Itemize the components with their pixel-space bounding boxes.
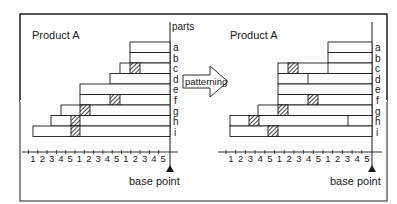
svg-text:5: 5 <box>364 153 369 164</box>
svg-text:f: f <box>174 95 177 106</box>
patterning-diagram: Product A parts a b c d e f <box>0 0 397 204</box>
hatch-c <box>288 63 298 74</box>
bar-g <box>258 105 372 116</box>
svg-text:a: a <box>173 42 179 53</box>
right-base-point-marker <box>368 165 376 172</box>
left-row-labels: a b c d e f g h i <box>173 42 179 138</box>
right-axis-labels: 1 2 3 4 5 1 2 3 4 5 1 2 3 4 5 <box>228 153 369 164</box>
svg-text:2: 2 <box>335 153 340 164</box>
svg-text:4: 4 <box>354 153 359 164</box>
right-row-labels: a b c d e f g h i <box>375 42 381 138</box>
parts-label: parts <box>172 21 194 32</box>
hatch-c <box>130 63 140 74</box>
svg-text:4: 4 <box>58 153 63 164</box>
hatch-f <box>110 95 120 106</box>
svg-text:h: h <box>173 116 179 127</box>
hatch-h <box>249 116 259 127</box>
svg-text:i: i <box>174 127 176 138</box>
svg-text:e: e <box>375 84 381 95</box>
hatch-i <box>268 126 278 137</box>
right-title: Product A <box>230 29 278 41</box>
svg-text:4: 4 <box>105 153 110 164</box>
bar-e <box>278 84 372 95</box>
bar-f <box>278 95 372 106</box>
bar-a <box>130 42 170 53</box>
svg-text:3: 3 <box>296 153 301 164</box>
bar-i <box>33 126 170 137</box>
svg-text:5: 5 <box>114 153 119 164</box>
svg-text:1: 1 <box>123 153 128 164</box>
svg-text:e: e <box>173 84 179 95</box>
bar-c <box>120 63 170 74</box>
hatch-f <box>308 95 318 106</box>
bar-h <box>51 116 170 127</box>
left-bars <box>33 42 170 137</box>
svg-text:2: 2 <box>40 153 45 164</box>
bar-a <box>328 42 372 53</box>
svg-text:2: 2 <box>287 153 292 164</box>
bar-f <box>80 95 170 106</box>
left-axis-labels: 1 2 3 4 5 1 2 3 4 5 1 2 3 4 5 <box>30 153 165 164</box>
svg-text:2: 2 <box>133 153 138 164</box>
svg-text:4: 4 <box>306 153 311 164</box>
bar-d <box>278 74 372 85</box>
svg-text:4: 4 <box>257 153 262 164</box>
svg-text:4: 4 <box>151 153 156 164</box>
hatch-g <box>278 105 288 116</box>
svg-text:1: 1 <box>30 153 35 164</box>
svg-text:c: c <box>375 63 380 74</box>
bar-i <box>230 126 372 137</box>
hatch-i <box>71 126 80 137</box>
left-panel: Product A parts a b c d e f <box>22 21 194 187</box>
bar-g <box>61 105 170 116</box>
arrow-label: patterning <box>185 76 227 87</box>
left-base-point-marker <box>166 165 174 172</box>
svg-text:3: 3 <box>49 153 54 164</box>
right-base-label: base point <box>330 175 381 187</box>
svg-text:3: 3 <box>142 153 147 164</box>
svg-text:a: a <box>375 42 381 53</box>
svg-text:5: 5 <box>316 153 321 164</box>
svg-text:2: 2 <box>238 153 243 164</box>
svg-text:5: 5 <box>68 153 73 164</box>
bar-e <box>80 84 170 95</box>
right-panel: Product A a b c d e f <box>218 22 382 187</box>
svg-text:1: 1 <box>325 153 330 164</box>
bar-b <box>130 53 170 64</box>
bar-d <box>110 74 170 85</box>
svg-text:h: h <box>375 116 381 127</box>
svg-text:5: 5 <box>267 153 272 164</box>
hatch-h <box>71 116 80 127</box>
patterning-arrow: patterning <box>183 66 228 97</box>
left-title: Product A <box>32 29 80 41</box>
svg-text:3: 3 <box>248 153 253 164</box>
svg-text:3: 3 <box>345 153 350 164</box>
svg-text:i: i <box>376 127 378 138</box>
svg-text:c: c <box>173 63 178 74</box>
svg-text:5: 5 <box>161 153 166 164</box>
svg-text:1: 1 <box>77 153 82 164</box>
left-base-label: base point <box>129 175 180 187</box>
right-bars <box>230 42 372 137</box>
svg-text:1: 1 <box>277 153 282 164</box>
svg-text:f: f <box>376 95 379 106</box>
hatch-g <box>80 105 90 116</box>
svg-text:3: 3 <box>95 153 100 164</box>
svg-text:2: 2 <box>86 153 91 164</box>
bar-b <box>328 53 372 64</box>
svg-text:1: 1 <box>228 153 233 164</box>
